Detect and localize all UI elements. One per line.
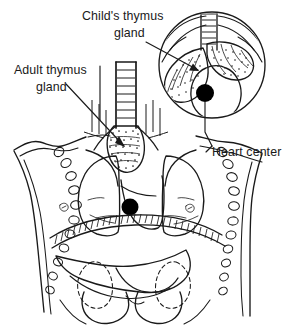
label-heart-center: Heart center	[212, 145, 281, 159]
heart-center-dot-inset	[196, 84, 214, 102]
anatomy-illustration: Child's thymus gland Adult thymus gland …	[0, 0, 294, 332]
label-child-thymus-line1: Child's thymus	[82, 9, 164, 23]
label-adult-thymus-line1: Adult thymus	[14, 63, 87, 77]
label-adult-thymus-line2: gland	[36, 80, 67, 94]
heart-center-dot-torso	[122, 199, 139, 216]
anatomy-figure: Child's thymus gland Adult thymus gland …	[0, 0, 294, 332]
label-child-thymus-line2: gland	[114, 26, 145, 40]
